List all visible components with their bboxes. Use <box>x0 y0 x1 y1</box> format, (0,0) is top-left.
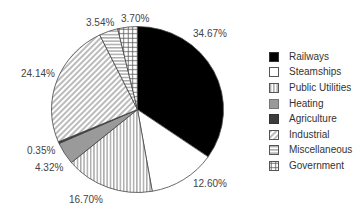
miscellaneous-swatch-icon <box>269 145 279 155</box>
slice-label-miscellaneous: 3.54% <box>86 18 114 28</box>
legend-label: Government <box>289 161 344 171</box>
legend-label: Industrial <box>289 130 330 140</box>
legend-item-heating: Heating <box>269 96 352 112</box>
legend-item-miscellaneous: Miscellaneous <box>269 143 352 159</box>
public-utilities-swatch-icon <box>269 83 279 93</box>
slice-label-agriculture: 0.35% <box>27 146 55 156</box>
slice-label-industrial: 24.14% <box>21 69 55 79</box>
agriculture-swatch-icon <box>269 114 279 124</box>
slice-label-public-utilities: 16.70% <box>69 195 103 205</box>
pie-slices <box>51 27 223 193</box>
slice-label-railways: 34.67% <box>193 29 227 39</box>
steamships-swatch-icon <box>269 67 279 77</box>
government-swatch-icon <box>269 161 279 171</box>
legend-label: Public Utilities <box>289 83 351 93</box>
legend-item-government: Government <box>269 158 352 174</box>
slice-label-heating: 4.32% <box>35 163 63 173</box>
industrial-swatch-icon <box>269 130 279 140</box>
legend-item-agriculture: Agriculture <box>269 111 352 127</box>
legend-label: Steamships <box>289 67 341 77</box>
legend-label: Agriculture <box>289 114 337 124</box>
legend-label: Miscellaneous <box>289 145 352 155</box>
legend-label: Heating <box>289 99 323 109</box>
legend: Railways Steamships Public Utilities Hea… <box>269 49 352 174</box>
heating-swatch-icon <box>269 99 279 109</box>
slice-label-government: 3.70% <box>121 14 149 24</box>
legend-item-steamships: Steamships <box>269 65 352 81</box>
legend-item-industrial: Industrial <box>269 127 352 143</box>
legend-label: Railways <box>289 52 329 62</box>
legend-item-public-utilities: Public Utilities <box>269 80 352 96</box>
legend-item-railways: Railways <box>269 49 352 65</box>
railways-swatch-icon <box>269 52 279 62</box>
slice-label-steamships: 12.60% <box>193 179 227 189</box>
